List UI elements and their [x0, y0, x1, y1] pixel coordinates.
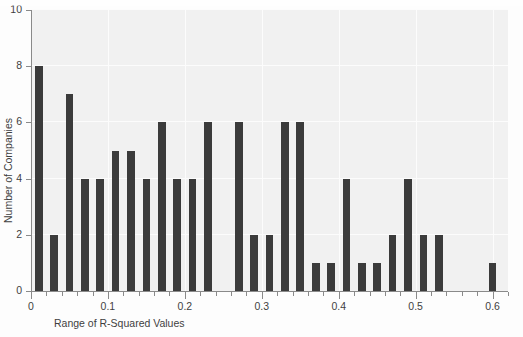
x-tick-label: 0.6	[485, 301, 500, 312]
gridline-horizontal	[31, 65, 508, 66]
bar	[204, 122, 212, 291]
x-axis-title: Range of R-Squared Values	[54, 317, 185, 329]
bar	[266, 235, 274, 291]
bar	[250, 235, 258, 291]
bar	[420, 235, 428, 291]
x-tick-major	[262, 292, 263, 299]
y-tick-label: 2	[16, 229, 22, 240]
x-tick-minor	[477, 292, 478, 296]
x-tick-major	[493, 292, 494, 299]
bars-container	[31, 10, 508, 291]
x-tick-minor	[431, 292, 432, 296]
x-tick-minor	[216, 292, 217, 296]
x-tick-minor	[200, 292, 201, 296]
y-tick	[26, 179, 31, 180]
y-tick	[26, 10, 31, 11]
bar	[81, 179, 89, 291]
bar	[66, 94, 74, 291]
bar	[281, 122, 289, 291]
x-tick-minor	[400, 292, 401, 296]
x-axis-scale: 00.10.20.30.40.50.6	[31, 292, 508, 316]
x-tick-minor	[446, 292, 447, 296]
x-tick-minor	[293, 292, 294, 296]
x-tick-minor	[46, 292, 47, 296]
x-tick-major	[416, 292, 417, 299]
x-tick-label: 0	[28, 301, 34, 312]
bar	[296, 122, 304, 291]
bar	[404, 179, 412, 291]
x-tick-minor	[323, 292, 324, 296]
y-tick	[26, 235, 31, 236]
gridline-vertical	[262, 10, 263, 291]
gridline-vertical	[185, 10, 186, 291]
y-axis-title: Number of Companies	[2, 103, 14, 223]
x-tick-minor	[62, 292, 63, 296]
bar	[173, 179, 181, 291]
x-tick-label: 0.3	[254, 301, 269, 312]
bar	[189, 179, 197, 291]
x-tick-minor	[169, 292, 170, 296]
bar	[235, 122, 243, 291]
gridline-vertical	[339, 10, 340, 291]
x-tick-minor	[154, 292, 155, 296]
x-tick-minor	[354, 292, 355, 296]
gridline-vertical	[493, 10, 494, 291]
bar	[112, 151, 120, 292]
top-trim-edge	[0, 0, 523, 6]
y-tick-label: 8	[16, 60, 22, 71]
bar	[312, 263, 320, 291]
bar	[96, 179, 104, 291]
x-tick-label: 0.5	[408, 301, 423, 312]
x-tick-minor	[462, 292, 463, 296]
x-tick-minor	[385, 292, 386, 296]
chart-figure: 0246810 00.10.20.30.40.50.6 Number of Co…	[0, 0, 523, 337]
bar	[489, 263, 497, 291]
x-tick-label: 0.1	[101, 301, 116, 312]
x-tick-minor	[308, 292, 309, 296]
x-tick-minor	[139, 292, 140, 296]
x-tick-minor	[370, 292, 371, 296]
plot-area	[31, 10, 508, 291]
y-tick-label: 0	[16, 285, 22, 296]
gridline-vertical	[108, 10, 109, 291]
x-tick-minor	[77, 292, 78, 296]
x-tick-label: 0.2	[178, 301, 193, 312]
x-tick-minor	[246, 292, 247, 296]
bar	[435, 235, 443, 291]
x-tick-major	[339, 292, 340, 299]
bar	[35, 66, 43, 291]
y-axis-line	[31, 10, 32, 292]
x-tick-minor	[231, 292, 232, 296]
x-tick-minor	[277, 292, 278, 296]
bar	[158, 122, 166, 291]
bar	[127, 151, 135, 292]
x-tick-major	[185, 292, 186, 299]
x-tick-minor	[93, 292, 94, 296]
x-tick-major	[108, 292, 109, 299]
y-axis-title-wrap: Number of Companies	[6, 95, 20, 225]
gridline-horizontal	[31, 121, 508, 122]
gridline-horizontal	[31, 9, 508, 10]
x-tick-label: 0.4	[331, 301, 346, 312]
x-tick-minor	[123, 292, 124, 296]
y-tick	[26, 122, 31, 123]
bar	[343, 179, 351, 291]
gridline-vertical	[416, 10, 417, 291]
bar	[143, 179, 151, 291]
bar	[50, 235, 58, 291]
x-tick-minor	[508, 292, 509, 296]
x-tick-major	[31, 292, 32, 299]
y-tick	[26, 66, 31, 67]
bar	[373, 263, 381, 291]
bar	[358, 263, 366, 291]
bar	[389, 235, 397, 291]
bar	[327, 263, 335, 291]
